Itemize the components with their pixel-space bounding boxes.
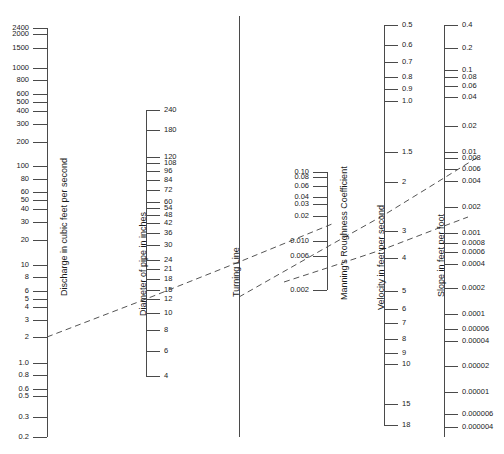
tick-roughness [313,186,327,187]
tick-label-slope: 0.0002 [462,284,485,292]
tick-diameter [146,180,160,181]
tick-slope [444,392,458,393]
tick-label-diameter: 42 [164,219,172,227]
tick-label-slope: 0.00001 [462,388,489,396]
tick-label-diameter: 18 [164,275,172,283]
tick-velocity [384,291,398,292]
tick-label-diameter: 4 [164,372,168,380]
tick-label-slope: 0.0004 [462,260,485,268]
tick-label-discharge: 1.0 [0,359,29,367]
tick-diameter [146,290,160,291]
tick-label-discharge: 50 [0,196,29,204]
tick-discharge [33,142,47,143]
tick-label-diameter: 12 [164,295,172,303]
tick-label-discharge: 0.2 [0,433,29,441]
tick-discharge [33,299,47,300]
tick-diameter [146,157,160,158]
tick-discharge [33,28,47,29]
tick-discharge [33,68,47,69]
tick-label-diameter: 72 [164,186,172,194]
tick-slope [444,25,458,26]
tick-label-velocity: 18 [402,421,410,429]
tick-slope [444,97,458,98]
tick-slope [444,77,458,78]
tick-discharge [33,192,47,193]
tick-label-discharge: 500 [0,98,29,106]
tick-label-discharge: 200 [0,138,29,146]
tick-label-slope: 0.06 [462,82,477,90]
tick-discharge [33,124,47,125]
axis-line-turning-line [239,16,240,437]
tick-label-velocity: 4 [402,254,406,262]
tick-diameter [146,208,160,209]
tick-label-slope: 0.000006 [462,410,493,418]
tick-discharge [33,48,47,49]
tick-label-velocity: 0.7 [402,58,412,66]
tick-roughness [313,177,327,178]
tick-label-discharge: 10 [0,261,29,269]
tick-label-diameter: 6 [164,347,168,355]
tick-label-roughness: 0.02 [251,212,309,220]
tick-diameter [146,279,160,280]
tick-label-discharge: 4 [0,303,29,311]
tick-slope [444,243,458,244]
tick-diameter [146,299,160,300]
tick-label-discharge: 300 [0,120,29,128]
tick-velocity [384,425,398,426]
tick-label-discharge: 20 [0,236,29,244]
tick-label-slope: 0.0006 [462,248,485,256]
tick-diameter [146,130,160,131]
axis-title-roughness: Manning's Roughness Coefficient [340,166,349,300]
tick-velocity [384,258,398,259]
tick-diameter [146,233,160,234]
tick-label-discharge: 2000 [0,30,29,38]
tick-label-slope: 0.2 [462,44,472,52]
axis-title-slope: Slope in feet per foot [437,214,446,297]
tick-velocity [384,404,398,405]
tick-discharge [33,222,47,223]
tick-label-velocity: 0.5 [402,21,412,29]
tick-label-slope: 0.02 [462,122,477,130]
tick-discharge [33,307,47,308]
tick-label-discharge: 2 [0,333,29,341]
tick-slope [444,126,458,127]
tick-label-velocity: 0.6 [402,41,412,49]
tick-label-roughness: 0.002 [251,286,309,294]
tick-discharge [33,240,47,241]
tick-discharge [33,94,47,95]
tick-velocity [384,62,398,63]
tick-label-discharge: 80 [0,175,29,183]
tick-roughness [313,256,327,257]
tick-velocity [384,364,398,365]
tick-label-velocity: 5 [402,287,406,295]
tick-label-velocity: 6 [402,305,406,313]
tick-label-diameter: 15 [164,286,172,294]
tick-slope [444,366,458,367]
tick-label-velocity: 1.0 [402,97,412,105]
tick-label-roughness: 0.006 [251,252,309,260]
tick-label-velocity: 0.8 [402,73,412,81]
tick-label-discharge: 0.5 [0,392,29,400]
tick-slope [444,427,458,428]
tick-discharge [33,209,47,210]
tick-discharge [33,166,47,167]
tick-diameter [146,269,160,270]
tick-label-roughness: 0.03 [251,200,309,208]
tick-discharge [33,417,47,418]
tick-velocity [384,45,398,46]
tick-label-roughness: 0.06 [251,182,309,190]
tick-label-slope: 0.004 [462,177,481,185]
nomograph-figure: Discharge in cubic feet per second240020… [0,0,504,454]
tick-velocity [384,231,398,232]
tick-roughness [313,241,327,242]
tick-label-diameter: 8 [164,326,168,334]
tick-slope [444,158,458,159]
tick-velocity [384,353,398,354]
tick-discharge [33,389,47,390]
tick-slope [444,414,458,415]
tick-diameter [146,223,160,224]
tick-label-discharge: 800 [0,76,29,84]
tick-discharge [33,363,47,364]
tick-discharge [33,102,47,103]
tick-diameter [146,376,160,377]
